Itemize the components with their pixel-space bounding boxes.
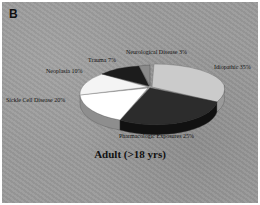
chart-frame: B Trauma 7% Neurological Diseas: [2, 2, 258, 203]
label-neurological: Neurological Disease 3%: [126, 49, 187, 55]
label-trauma: Trauma 7%: [88, 57, 116, 63]
label-pharmacologic: Pharmacologic Exposures 25%: [119, 133, 194, 139]
label-neoplasia: Neoplasia 10%: [46, 68, 83, 74]
chart-caption: Adult (>18 yrs): [2, 148, 258, 160]
label-sickle-cell: Sickle Cell Disease 20%: [6, 97, 65, 103]
label-idiopathic: Idiopathic 35%: [214, 64, 251, 70]
